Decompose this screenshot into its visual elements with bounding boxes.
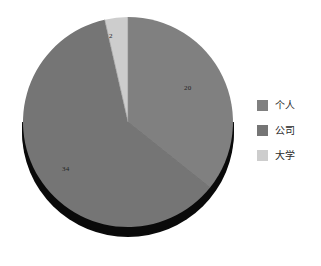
- legend-swatch-university: [257, 150, 268, 161]
- legend-item-university[interactable]: 大学: [257, 148, 319, 162]
- legend-label-individual: 个人: [275, 100, 295, 111]
- legend-label-company: 公司: [275, 125, 295, 136]
- legend-swatch-individual: [257, 100, 268, 111]
- pie-plot-area: 20 34 2: [0, 0, 252, 266]
- pie-data-label-individual: 20: [184, 84, 191, 92]
- legend-item-company[interactable]: 公司: [257, 123, 319, 137]
- pie-data-label-company: 34: [62, 165, 69, 173]
- chart-legend: 个人 公司 大学: [257, 98, 319, 162]
- pie-chart-svg: [0, 0, 252, 266]
- pie-chart-figure: 20 34 2 个人 公司 大学: [0, 0, 321, 266]
- pie-data-label-university: 2: [109, 32, 113, 40]
- legend-item-individual[interactable]: 个人: [257, 98, 319, 112]
- legend-label-university: 大学: [275, 150, 295, 161]
- legend-swatch-company: [257, 125, 268, 136]
